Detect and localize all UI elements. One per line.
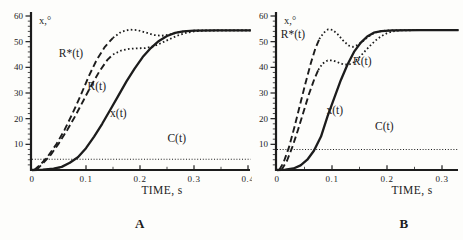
x-tick-label: 0.3 (187, 174, 200, 184)
curve-label-Rt: R*(t) (281, 28, 305, 41)
series-R(t)-settle (113, 30, 251, 54)
panel-letter-b: B (374, 216, 434, 232)
y-tick-label: 60 (14, 11, 24, 21)
series-R(t)-settle (318, 30, 458, 70)
x-tick-label: 0.3 (435, 174, 448, 184)
chart-panel-a: 10203040506000.10.20.30.4R*(t)R(t)x(t)C(… (0, 0, 252, 240)
y-tick-label: 20 (259, 114, 269, 124)
y-tick-label: 10 (259, 139, 269, 149)
curve-label-xt: x(t) (326, 104, 343, 117)
x-tick-label: 0.2 (380, 174, 393, 184)
curve-label-Rt: R(t) (353, 55, 372, 68)
x-tick-label: 0 (274, 174, 279, 184)
x-axis-title: TIME, s (391, 184, 432, 197)
y-tick-label: 30 (14, 88, 24, 98)
chart-b-plot: 10203040506000.10.20.3R*(t)R(t)x(t)C(t)x… (252, 0, 463, 240)
x-minor-ticks (305, 167, 415, 169)
series-R(t)-rise (281, 70, 318, 170)
figure-canvas: 10203040506000.10.20.30.4R*(t)R(t)x(t)C(… (0, 0, 463, 240)
y-axis-title: x,° (39, 15, 51, 26)
y-tick-label: 20 (14, 114, 24, 124)
curve-label-xt: x(t) (110, 107, 127, 120)
chart-panel-b: 10203040506000.10.20.3R*(t)R(t)x(t)C(t)x… (252, 0, 463, 240)
x-tick-label: 0.4 (241, 174, 252, 184)
x-tick-label: 0.1 (325, 174, 338, 184)
y-tick-label: 40 (14, 62, 24, 72)
series-R*(t)-settle (319, 29, 458, 47)
y-tick-label: 50 (259, 37, 269, 47)
series-R(t)-rise (36, 55, 113, 171)
x-tick-label: 0.2 (133, 174, 146, 184)
curve-label-Ct: C(t) (167, 132, 186, 145)
x-axis-title: TIME, s (141, 184, 182, 197)
y-tick-label: 40 (259, 62, 269, 72)
y-tick-label: 50 (14, 37, 24, 47)
y-tick-label: 10 (14, 139, 24, 149)
curve-label-Ct: C(t) (375, 120, 394, 133)
y-tick-label: 60 (259, 11, 269, 21)
chart-a-plot: 10203040506000.10.20.30.4R*(t)R(t)x(t)C(… (0, 0, 252, 240)
y-tick-label: 30 (259, 88, 269, 98)
curve-label-Rt: R(t) (88, 80, 107, 93)
x-tick-label: 0.1 (79, 174, 92, 184)
y-axis-title: x,° (284, 15, 296, 26)
x-tick-label: 0 (29, 174, 34, 184)
panel-letter-a: A (110, 216, 170, 232)
curve-label-Rt: R*(t) (59, 47, 83, 60)
